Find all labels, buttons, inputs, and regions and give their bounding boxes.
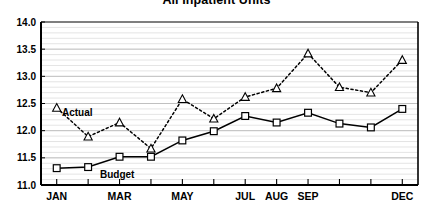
series-budget (53, 106, 405, 172)
series-line (57, 109, 403, 168)
data-point-marker (367, 124, 374, 131)
data-point-marker (335, 83, 343, 91)
x-tick-label: JUL (235, 190, 255, 202)
data-point-marker (336, 120, 343, 127)
x-tick-label: MAY (171, 190, 193, 202)
data-point-marker (398, 56, 406, 64)
y-tick-label: 13.5 (17, 44, 37, 55)
data-point-marker (53, 165, 60, 172)
series-label-actual: Actual (62, 107, 93, 118)
data-point-marker (85, 164, 92, 171)
data-point-marker (179, 137, 186, 144)
data-point-marker (115, 118, 123, 126)
y-tick-label: 11.0 (17, 180, 36, 191)
data-point-marker (242, 113, 249, 120)
x-axis-tick-labels: JANMARMAYJULAUGSEPDEC (46, 190, 414, 202)
x-tick-label: SEP (298, 190, 319, 202)
y-tick-label: 13.0 (17, 71, 37, 82)
data-point-marker (399, 106, 406, 113)
data-point-marker (305, 109, 312, 116)
y-tick-label: 12.0 (17, 125, 37, 136)
data-point-marker (273, 119, 280, 126)
y-tick-label: 11.5 (17, 152, 36, 163)
series-label-budget: Budget (100, 169, 135, 180)
y-tick-label: 14.0 (17, 17, 37, 28)
series-line (57, 54, 403, 149)
data-point-marker (116, 153, 123, 160)
x-tick-label: MAR (108, 190, 132, 202)
x-tick-label: AUG (265, 190, 288, 202)
chart-container: All Inpatient Units 11.011.512.012.513.0… (0, 0, 433, 219)
data-point-marker (304, 49, 312, 57)
line-chart-plot: 11.011.512.012.513.013.514.0 JANMARMAYJU… (0, 0, 433, 219)
data-point-marker (178, 95, 186, 103)
data-point-marker (148, 153, 155, 160)
data-point-marker (210, 128, 217, 135)
y-tick-label: 12.5 (17, 98, 37, 109)
data-point-marker (53, 104, 61, 112)
x-tick-label: DEC (391, 190, 414, 202)
data-point-marker (210, 114, 218, 122)
series-actual (53, 49, 407, 152)
x-tick-label: JAN (46, 190, 67, 202)
